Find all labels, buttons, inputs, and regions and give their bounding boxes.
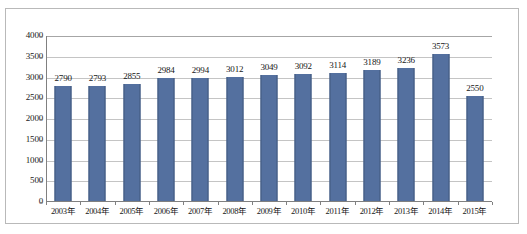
bar-value-label: 2550 [466,83,483,93]
x-axis-tick-label: 2012年 [355,205,389,217]
x-axis-tick-label: 2003年 [46,205,80,217]
y-axis-tickmark [40,78,43,79]
y-axis-tick-label: 1000 [9,156,43,165]
y-axis-tick-label: 4000 [9,31,43,40]
bar-value-label: 2790 [55,73,72,83]
y-axis-tickmark [40,202,43,203]
bar-slot: 3049 [252,36,286,202]
y-axis-tick-labels: 05001000150020002500300035004000 [6,36,43,202]
bar-slot: 3114 [320,36,354,202]
bar-value-label: 3189 [363,57,380,67]
bar[interactable] [363,70,380,202]
chart-plot-wrapper: 05001000150020002500300035004000 2790279… [6,9,518,223]
bar-value-label: 3573 [432,41,449,51]
y-axis-tickmark [40,98,43,99]
y-axis-tick-label: 1500 [9,135,43,144]
x-axis-tick-label: 2015年 [458,205,492,217]
x-axis-tickmark [492,202,493,205]
bar-value-label: 3114 [329,60,346,70]
bar-slot: 3573 [423,36,457,202]
bar[interactable] [398,68,415,202]
y-axis-tick-label: 500 [9,176,43,185]
bar-slot: 3236 [389,36,423,202]
bar-value-label: 3236 [398,55,415,65]
bar[interactable] [123,84,140,202]
x-axis-tick-label: 2007年 [183,205,217,217]
bar-value-label: 3049 [260,62,277,72]
x-axis-tick-label: 2005年 [115,205,149,217]
bar-value-label: 2855 [123,71,140,81]
bar-slot: 2793 [80,36,114,202]
x-axis-tick-labels: 2003年2004年2005年2006年2007年2008年2009年2010年… [46,205,492,221]
y-axis-tick-label: 2000 [9,114,43,123]
bar[interactable] [466,96,483,202]
bar[interactable] [432,54,449,202]
bar-value-label: 3012 [226,64,243,74]
plot-area: 2790279328552984299430123049309231143189… [46,36,492,202]
y-axis-tickmark [40,119,43,120]
x-axis-tick-label: 2008年 [218,205,252,217]
y-axis-tickmark [40,36,43,37]
bar[interactable] [89,86,106,202]
bar-slot: 2994 [183,36,217,202]
y-axis-tick-label: 3000 [9,73,43,82]
bar[interactable] [295,74,312,202]
bar[interactable] [260,75,277,202]
bar-slot: 3012 [218,36,252,202]
bar-value-label: 2984 [157,65,174,75]
y-axis-line [46,36,47,202]
chart-frame: 05001000150020002500300035004000 2790279… [5,8,519,224]
bar[interactable] [55,86,72,202]
x-axis-tick-label: 2010年 [286,205,320,217]
bar-slot: 2550 [458,36,492,202]
y-axis-tickmark [40,57,43,58]
bar-slot: 2855 [115,36,149,202]
y-axis-tick-label: 2500 [9,93,43,102]
x-axis-tick-label: 2009年 [252,205,286,217]
bar[interactable] [158,78,175,202]
y-axis-tickmark [40,181,43,182]
x-axis-tick-label: 2006年 [149,205,183,217]
bar-slot: 3092 [286,36,320,202]
bar[interactable] [226,77,243,202]
x-axis-tick-label: 2011年 [320,205,354,217]
x-axis-tick-label: 2013年 [389,205,423,217]
y-axis-tickmark [40,140,43,141]
y-axis-tickmark [40,161,43,162]
bar-value-label: 3092 [295,61,312,71]
bar-slot: 2790 [46,36,80,202]
bar[interactable] [192,78,209,202]
bar-slot: 3189 [355,36,389,202]
x-axis-tick-label: 2014年 [423,205,457,217]
y-axis-tick-label: 0 [9,197,43,206]
bar-value-label: 2994 [192,65,209,75]
bar[interactable] [329,73,346,202]
x-axis-tick-label: 2004年 [80,205,114,217]
bar-value-label: 2793 [89,73,106,83]
bar-slot: 2984 [149,36,183,202]
y-axis-tick-label: 3500 [9,52,43,61]
